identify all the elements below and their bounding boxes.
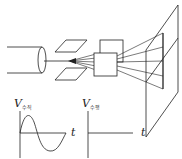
crt-diagram: V 수직 t V 수평 t <box>0 0 182 159</box>
graph-vertical: V 수직 t <box>14 97 76 158</box>
graph-vertical-subscript: 수직 <box>22 104 32 111</box>
screen <box>146 5 178 137</box>
graph-vertical-t-label: t <box>71 126 76 139</box>
graph-horizontal: V 수평 t <box>82 97 146 158</box>
graph-horizontal-subscript: 수평 <box>90 104 100 111</box>
electron-gun <box>7 47 46 73</box>
beams-to-screen <box>117 33 163 89</box>
graph-horizontal-t-label: t <box>141 126 146 139</box>
